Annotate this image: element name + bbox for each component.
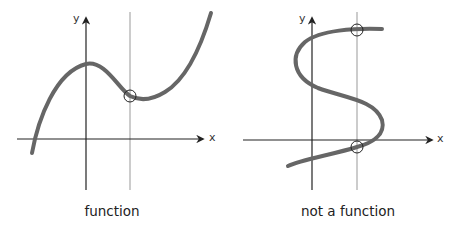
x-axis-label: x — [437, 132, 444, 145]
function-graph — [17, 12, 211, 190]
caption-function: function — [84, 203, 139, 219]
cubic-curve — [32, 13, 211, 153]
y-axis-label: y — [73, 12, 80, 25]
y-axis-label: y — [299, 12, 306, 25]
x-axis-label: x — [209, 131, 216, 144]
not-a-function-graph — [243, 12, 432, 190]
s-curve — [288, 29, 383, 166]
caption-not-a-function: not a function — [301, 203, 395, 219]
function-diagrams — [0, 0, 457, 237]
